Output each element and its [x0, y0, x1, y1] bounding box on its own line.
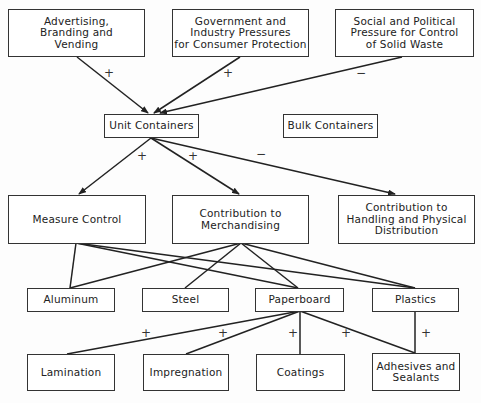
- edge-paperboard-impregnation: [186, 311, 300, 354]
- sign-paperboard-impregnation: +: [218, 327, 228, 339]
- node-label: Lamination: [41, 367, 102, 379]
- node-label: Paperboard: [268, 294, 330, 306]
- node-aluminum: Aluminum: [27, 288, 115, 312]
- sign-unit-handling: −: [256, 148, 266, 160]
- sign-paperboard-coatings: +: [288, 327, 298, 339]
- node-label: Aluminum: [43, 294, 98, 306]
- node-impregnation: Impregnation: [143, 354, 229, 391]
- edge-paperboard-lamination: [67, 311, 300, 354]
- edge-paperboard-adhesives: [300, 311, 415, 353]
- node-label: Steel: [172, 294, 200, 306]
- node-label: Advertising, Branding and Vending: [40, 16, 113, 51]
- node-label: Contribution to Handling and Physical Di…: [346, 202, 466, 237]
- sign-plastics-adhesives: +: [421, 327, 431, 339]
- node-paperboard: Paperboard: [255, 288, 344, 312]
- node-label: Unit Containers: [109, 120, 194, 132]
- diagram-canvas: Advertising, Branding and Vending Govern…: [0, 0, 481, 403]
- node-label: Bulk Containers: [288, 120, 374, 132]
- node-label: Social and Political Pressure for Contro…: [351, 16, 459, 51]
- sign-social-unit: −: [356, 67, 366, 79]
- node-label: Adhesives and Sealants: [376, 361, 455, 384]
- node-measure-control: Measure Control: [8, 195, 146, 244]
- edge-measure-aluminum: [70, 243, 76, 288]
- node-social: Social and Political Pressure for Contro…: [335, 9, 474, 57]
- node-lamination: Lamination: [27, 354, 115, 391]
- node-label: Coatings: [277, 367, 325, 379]
- node-label: Impregnation: [150, 367, 223, 379]
- node-coatings: Coatings: [256, 354, 345, 391]
- node-adhesives: Adhesives and Sealants: [372, 353, 460, 391]
- sign-government-unit: +: [223, 67, 233, 79]
- node-handling: Contribution to Handling and Physical Di…: [338, 195, 475, 244]
- edge-unit-merchandising: [151, 138, 239, 194]
- node-label: Contribution to Merchandising: [199, 208, 281, 231]
- node-plastics: Plastics: [372, 288, 459, 312]
- node-label: Measure Control: [33, 214, 122, 226]
- sign-unit-merchandising: +: [188, 150, 198, 162]
- node-label: Plastics: [395, 294, 436, 306]
- sign-unit-measure: +: [137, 150, 147, 162]
- node-bulk-containers: Bulk Containers: [283, 114, 378, 138]
- edge-measure-plastics: [76, 243, 415, 288]
- edge-unit-measure: [79, 138, 151, 194]
- sign-paperboard-lamination: +: [141, 327, 151, 339]
- node-label: Government and Industry Pressures for Co…: [174, 16, 306, 51]
- node-advertising: Advertising, Branding and Vending: [8, 9, 145, 57]
- node-government: Government and Industry Pressures for Co…: [172, 9, 309, 57]
- edge-merch-aluminum: [70, 243, 241, 288]
- sign-paperboard-adhesives: +: [341, 327, 351, 339]
- node-merchandising: Contribution to Merchandising: [172, 195, 309, 244]
- edge-unit-handling: [151, 138, 395, 194]
- sign-advertising-unit: +: [104, 67, 114, 79]
- node-unit-containers: Unit Containers: [104, 114, 199, 138]
- node-steel: Steel: [142, 288, 229, 312]
